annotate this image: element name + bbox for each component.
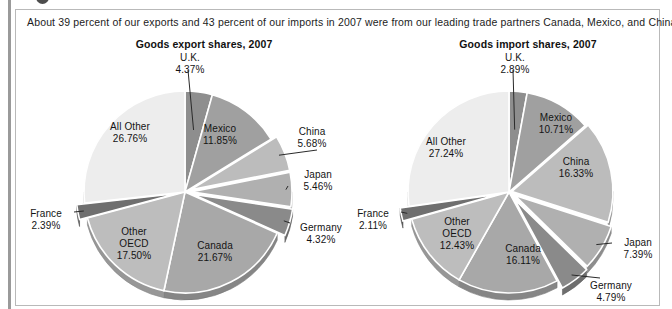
chart-title-export: Goods export shares, 2007 bbox=[104, 38, 304, 50]
slice-label-import-france: France 2.11% bbox=[345, 208, 401, 232]
slice-label-import-canada: Canada 16.11% bbox=[488, 243, 558, 267]
slice-label-export-other-oecd: Other OECD 17.50% bbox=[103, 226, 165, 262]
slice-label-export-uk: U.K. 4.37% bbox=[150, 52, 230, 76]
chart-title-import: Goods import shares, 2007 bbox=[428, 38, 628, 50]
slice-label-export-mexico: Mexico 11.85% bbox=[184, 123, 256, 147]
slice-label-export-china: China 5.68% bbox=[283, 126, 341, 150]
slice-label-import-china: China 16.33% bbox=[540, 156, 612, 180]
slice-label-import-all-other: All Other 27.24% bbox=[410, 136, 482, 160]
slice-label-export-japan: Japan 5.46% bbox=[290, 169, 346, 193]
slice-label-import-mexico: Mexico 10.71% bbox=[520, 112, 592, 136]
figure-caption: About 39 percent of our exports and 43 p… bbox=[27, 16, 649, 29]
slice-label-export-france: France 2.39% bbox=[18, 208, 74, 232]
slice-label-export-all-other: All Other 26.76% bbox=[94, 121, 166, 145]
slice-label-import-other-oecd: Other OECD 12.43% bbox=[426, 216, 488, 252]
slice-label-import-uk: U.K. 2.89% bbox=[475, 52, 555, 76]
slice-label-export-canada: Canada 21.67% bbox=[180, 240, 250, 264]
slice-label-import-germany: Germany 4.79% bbox=[577, 280, 645, 304]
scan-artifact-bullet-dot bbox=[36, 0, 49, 4]
slice-label-import-japan: Japan 7.39% bbox=[610, 237, 666, 261]
scan-artifact-left-rule bbox=[8, 0, 11, 309]
